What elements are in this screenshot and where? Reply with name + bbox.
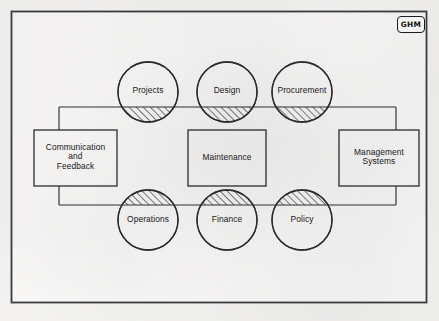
node-label-design: Design <box>197 86 257 95</box>
node-label-communication-and-feedback: Communication and Feedback <box>34 143 117 171</box>
node-label-finance: Finance <box>197 215 257 224</box>
node-label-projects: Projects <box>118 86 178 95</box>
node-label-procurement: Procurement <box>268 86 336 95</box>
node-label-management-systems: Management Systems <box>339 148 419 167</box>
node-label-policy: Policy <box>272 215 332 224</box>
ghm-logo-text: GHM <box>401 21 422 28</box>
ghm-logo: GHM <box>397 16 425 33</box>
node-label-maintenance: Maintenance <box>188 153 266 162</box>
node-label-operations: Operations <box>116 215 180 224</box>
